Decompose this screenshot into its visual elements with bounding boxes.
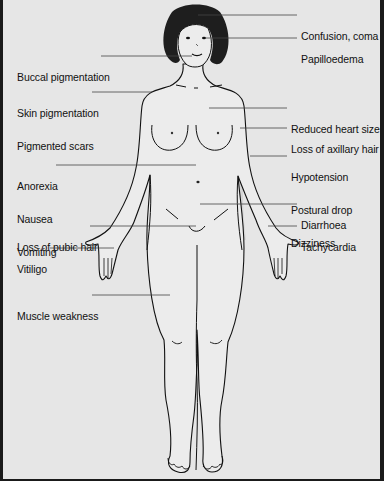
right-nipple <box>217 132 219 134</box>
navel <box>196 181 199 183</box>
face <box>178 25 211 67</box>
left-eye <box>186 37 190 40</box>
label-skin: Skin pigmentation Pigmented scars <box>17 86 99 163</box>
right-eye <box>202 37 206 40</box>
left-nipple <box>171 132 173 134</box>
label-tachy: Tachycardia <box>301 220 356 264</box>
label-vitiligo: Vitiligo <box>17 242 47 286</box>
body-outline <box>86 64 299 473</box>
label-papilloedema: Papilloedema <box>301 32 363 76</box>
label-muscle: Muscle weakness <box>17 289 98 333</box>
